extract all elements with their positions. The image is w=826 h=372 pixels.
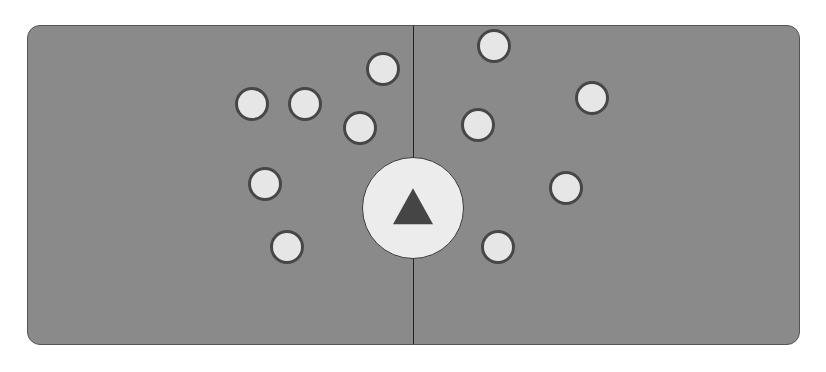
left-dot-2[interactable]	[288, 87, 322, 121]
left-dot-4[interactable]	[343, 111, 377, 145]
right-dot-4[interactable]	[549, 171, 583, 205]
right-dot-5[interactable]	[481, 230, 515, 264]
center-button[interactable]	[362, 157, 464, 259]
left-dot-3[interactable]	[366, 52, 400, 86]
right-dot-3[interactable]	[461, 108, 495, 142]
left-dot-6[interactable]	[270, 230, 304, 264]
left-dot-1[interactable]	[235, 87, 269, 121]
right-dot-2[interactable]	[575, 81, 609, 115]
right-dot-1[interactable]	[477, 29, 511, 63]
left-dot-5[interactable]	[248, 167, 282, 201]
triangle-up-icon	[393, 188, 433, 224]
